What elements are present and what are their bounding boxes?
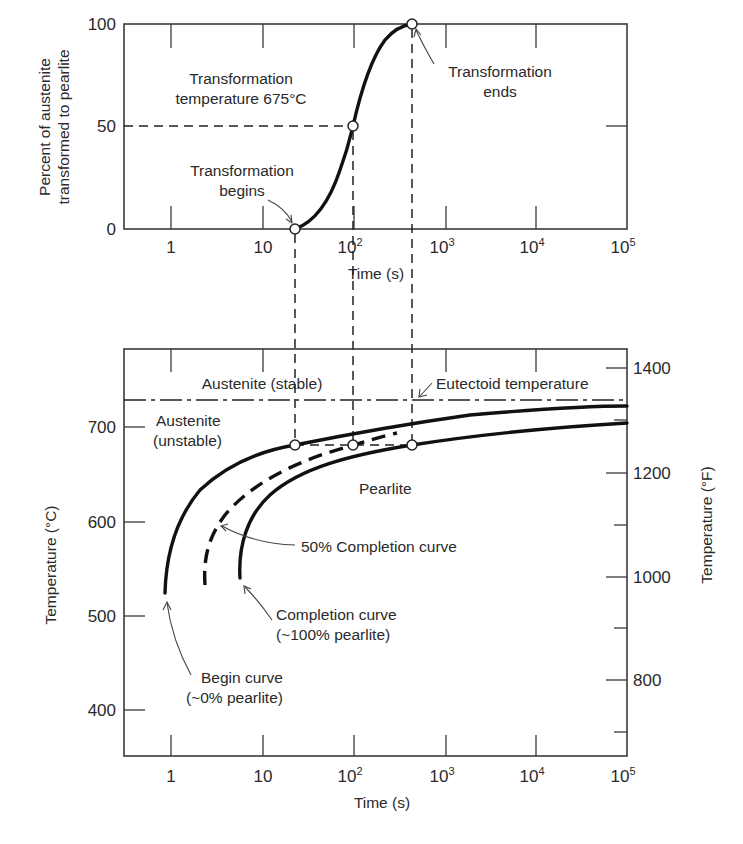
arrow-completion-icon [245,587,272,620]
arrow-begin-curve-icon [167,603,191,675]
marker-50 [348,121,358,131]
bottom-left-y-ticks [124,427,145,710]
y-tick-700: 700 [88,418,116,437]
y-tick-600: 600 [88,513,116,532]
bottom-x-axis-title: Time (s) [354,794,410,811]
svg-text:Percent of austenite: Percent of austenite [36,58,53,196]
bottom-y-axis-title-left: Temperature (°C) [42,505,59,624]
svg-text:105: 105 [610,765,635,786]
label-begin-1: Begin curve [201,669,283,686]
svg-text:102: 102 [337,765,362,786]
svg-text:1: 1 [166,238,175,257]
y-tick-1200F: 1200 [633,464,671,483]
bottom-chart: 700 600 500 400 1400 1200 1000 800 1 10 … [42,349,715,811]
svg-text:105: 105 [610,236,635,257]
top-y-tick-0: 0 [107,220,116,239]
svg-text:10: 10 [254,767,273,786]
svg-text:104: 104 [519,765,544,786]
annot-begin-2: begins [219,182,265,199]
top-x-axis-title: Time (s) [348,265,404,282]
y-tick-1000F: 1000 [633,568,671,587]
svg-text:transformed to pearlite: transformed to pearlite [55,49,72,204]
label-begin-2: (~0% pearlite) [186,689,283,706]
bottom-y-axis-title-right: Temperature (°F) [698,466,715,583]
svg-text:103: 103 [429,236,454,257]
ttt-figure: 100 50 0 1 10 102 103 104 105 Time (s) P… [0,0,743,844]
top-x-tick-labels: 1 10 102 103 104 105 [166,236,635,257]
arrow-end-icon [416,30,434,64]
top-chart: 100 50 0 1 10 102 103 104 105 Time (s) P… [36,15,636,282]
arrow-begin-icon [268,200,292,222]
annot-temp-1: Transformation [189,70,293,87]
marker-675-50 [348,440,358,450]
annot-end-1: Transformation [448,63,552,80]
label-austenite-unstable-2: (unstable) [153,432,222,449]
svg-text:1: 1 [166,767,175,786]
svg-text:104: 104 [519,236,544,257]
marker-begin [290,224,300,234]
svg-text:10: 10 [254,238,273,257]
annot-temp-2: temperature 675°C [175,90,306,107]
arrow-50-icon [222,526,295,545]
marker-675-begin [290,440,300,450]
top-y-axis-title: Percent of austenite transformed to pear… [36,49,72,204]
label-eutectoid: Eutectoid temperature [436,375,589,392]
label-completion-1: Completion curve [276,606,397,623]
marker-end [407,19,417,29]
arrow-eutectoid-icon [420,383,432,396]
top-y-tick-50: 50 [97,117,116,136]
top-y-tick-100: 100 [88,15,116,34]
label-pearlite: Pearlite [359,480,412,497]
y-tick-800F: 800 [633,671,661,690]
label-austenite-unstable-1: Austenite [156,412,221,429]
bottom-x-tick-labels: 1 10 102 103 104 105 [166,765,635,786]
label-50-completion: 50% Completion curve [301,538,457,555]
annot-begin-1: Transformation [190,162,294,179]
label-austenite-stable: Austenite (stable) [202,375,323,392]
fifty-percent-curve [205,433,397,585]
annot-end-2: ends [483,83,517,100]
y-tick-1400F: 1400 [633,359,671,378]
svg-text:102: 102 [337,236,362,257]
label-completion-2: (~100% pearlite) [276,626,390,643]
y-tick-500: 500 [88,607,116,626]
marker-675-end [407,440,417,450]
svg-text:103: 103 [429,765,454,786]
y-tick-400: 400 [88,701,116,720]
